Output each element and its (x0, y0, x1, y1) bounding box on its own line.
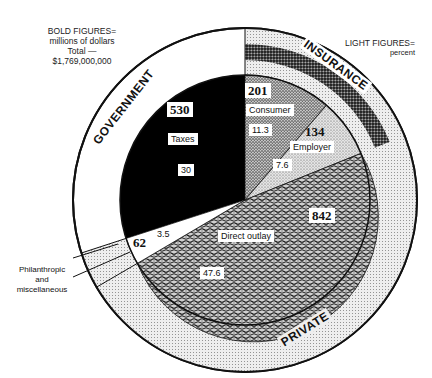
consumer-label: Consumer (246, 104, 294, 116)
annotation-text: Philanthropic (10, 265, 74, 275)
taxes-percent: 30 (178, 164, 194, 176)
consumer-amount: 201 (245, 83, 271, 98)
philanthropic-percent: 3.5 (154, 228, 173, 240)
annotation-text: and (10, 275, 74, 285)
employer-label: Employer (290, 141, 334, 153)
direct-outlay-label: Direct outlay (218, 230, 274, 242)
taxes-amount: 530 (167, 102, 193, 117)
consumer-percent: 11.3 (249, 124, 272, 136)
legend-text: LIGHT FIGURES= (345, 38, 415, 48)
legend-text: millions of dollars (36, 36, 128, 46)
legend-text: Total — (36, 46, 128, 56)
bold-figures-note: BOLD FIGURES= millions of dollars Total … (36, 26, 128, 66)
employer-percent: 7.6 (273, 159, 292, 171)
direct-outlay-percent: 47.6 (200, 267, 224, 279)
philanthropic-annotation: Philanthropic and miscellaneous (10, 265, 74, 295)
legend-text: percent (345, 48, 415, 58)
light-figures-note: LIGHT FIGURES= percent (345, 38, 415, 58)
annotation-text: miscellaneous (10, 285, 74, 295)
taxes-label: Taxes (168, 133, 198, 145)
employer-amount: 134 (302, 124, 328, 139)
direct-outlay-amount: 842 (309, 208, 335, 223)
philanthropic-amount: 62 (130, 235, 149, 250)
legend-text: BOLD FIGURES= (36, 26, 128, 36)
legend-text: $1,769,000,000 (36, 56, 128, 66)
